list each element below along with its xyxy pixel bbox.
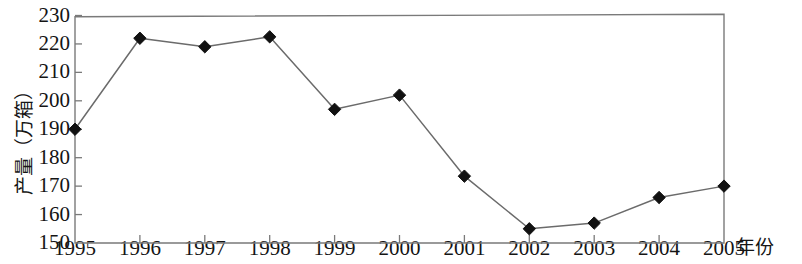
data-point-marker (134, 32, 146, 44)
line-chart-figure: 产量（万箱） 150160170180190200210220230 19951… (0, 0, 802, 264)
data-point-marker (653, 191, 665, 203)
plot-area (0, 0, 802, 264)
data-point-marker (199, 41, 211, 53)
data-point-marker (718, 180, 730, 192)
data-line (75, 37, 724, 229)
data-point-marker (69, 123, 81, 135)
plot-svg (0, 0, 802, 264)
data-point-marker (588, 217, 600, 229)
plot-frame (75, 14, 724, 243)
